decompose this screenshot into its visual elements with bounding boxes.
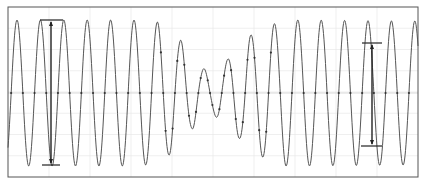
sample-point bbox=[242, 121, 244, 123]
sample-point bbox=[80, 92, 82, 94]
sample-point bbox=[162, 92, 164, 94]
sample-point bbox=[384, 92, 386, 94]
sample-point bbox=[150, 92, 152, 94]
sample-point bbox=[253, 57, 255, 59]
sample-point bbox=[69, 92, 71, 94]
sample-point bbox=[104, 92, 106, 94]
sample-point bbox=[57, 92, 59, 94]
sample-point bbox=[349, 92, 351, 94]
sample-point bbox=[209, 92, 211, 94]
sample-point bbox=[408, 92, 410, 94]
sample-point bbox=[127, 92, 129, 94]
sample-point bbox=[258, 129, 260, 131]
sample-point bbox=[22, 92, 24, 94]
sample-point bbox=[270, 51, 272, 53]
sample-point bbox=[232, 92, 234, 94]
sample-point bbox=[174, 92, 176, 94]
sample-point bbox=[265, 131, 267, 133]
sample-point bbox=[197, 92, 199, 94]
sample-point bbox=[207, 79, 209, 81]
sample-point bbox=[188, 115, 190, 117]
sample-point bbox=[164, 130, 166, 132]
sample-point bbox=[326, 92, 328, 94]
sample-point bbox=[211, 104, 213, 106]
sample-point bbox=[396, 92, 398, 94]
sample-point bbox=[218, 108, 220, 110]
sample-point bbox=[186, 92, 188, 94]
waveform-chart bbox=[0, 0, 424, 184]
sample-point bbox=[256, 92, 258, 94]
sample-point bbox=[160, 51, 162, 53]
sample-point bbox=[172, 127, 174, 129]
sample-point bbox=[230, 69, 232, 71]
sample-point bbox=[291, 92, 293, 94]
sample-point bbox=[314, 92, 316, 94]
sample-point bbox=[303, 92, 305, 94]
sample-point bbox=[176, 60, 178, 62]
sample-point bbox=[338, 92, 340, 94]
sample-point bbox=[33, 92, 35, 94]
sample-point bbox=[200, 77, 202, 79]
sample-point bbox=[115, 92, 117, 94]
sample-point bbox=[373, 92, 375, 94]
sample-point bbox=[235, 118, 237, 120]
sample-point bbox=[361, 92, 363, 94]
sample-point bbox=[246, 59, 248, 61]
sample-point bbox=[267, 92, 269, 94]
sample-point bbox=[244, 92, 246, 94]
sample-point bbox=[195, 111, 197, 113]
sample-point bbox=[139, 92, 141, 94]
sample-point bbox=[279, 92, 281, 94]
sample-point bbox=[45, 92, 47, 94]
sample-point bbox=[221, 92, 223, 94]
sample-point bbox=[223, 75, 225, 77]
sample-point bbox=[183, 64, 185, 66]
sample-point bbox=[10, 92, 12, 94]
sample-points bbox=[10, 51, 410, 133]
sample-point bbox=[92, 92, 94, 94]
